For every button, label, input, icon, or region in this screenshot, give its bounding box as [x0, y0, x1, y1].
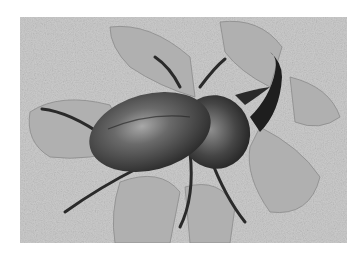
beetle-illustration	[20, 17, 347, 243]
beetle-photo	[20, 17, 347, 243]
